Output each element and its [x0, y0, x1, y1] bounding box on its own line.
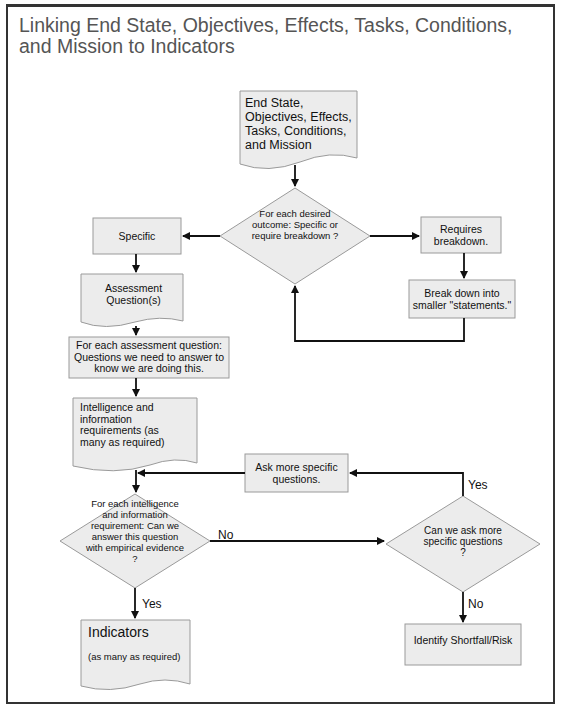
edge-label-empirical-no: No [218, 528, 233, 542]
edge-label-ask-more-no: No [468, 597, 483, 611]
node-assessment-questions: Assessment Question(s) [96, 282, 171, 306]
node-ask-more: Ask more specific questions. [248, 461, 345, 485]
node-for-each-question: For each assessment question: Questions … [71, 340, 227, 375]
node-indicators-title: Indicators [88, 624, 188, 640]
node-specific: Specific [93, 230, 181, 242]
node-indicators-sub: (as many as required) [88, 651, 193, 663]
node-intel-requirements: Intelligence and information requirement… [80, 402, 180, 448]
node-shortfall: Identify Shortfall/Risk [405, 634, 521, 646]
edge-askmore-yes [350, 473, 463, 496]
node-decision-ask-more: Can we ask more specific questions ? [420, 525, 506, 558]
node-break-down: Break down into smaller "statements." [409, 287, 515, 311]
node-decision-outcome: For each desired outcome: Specific or re… [240, 208, 350, 241]
node-start: End State, Objectives, Effects, Tasks, C… [245, 96, 360, 152]
node-decision-empirical: For each intelligence and information re… [82, 498, 188, 564]
edge-label-empirical-yes: Yes [142, 597, 162, 611]
node-requires-breakdown: Requires breakdown. [421, 223, 501, 247]
edge-label-ask-more-yes: Yes [468, 478, 488, 492]
